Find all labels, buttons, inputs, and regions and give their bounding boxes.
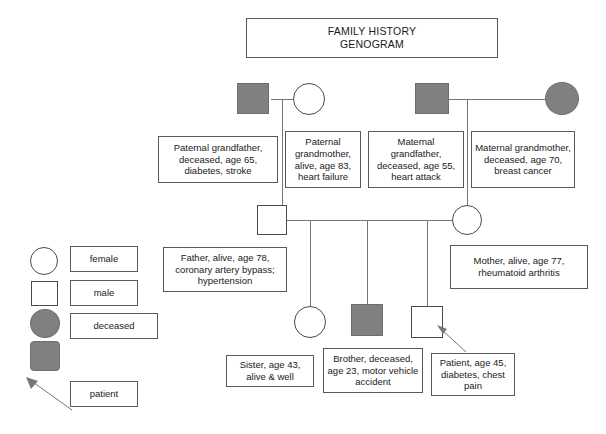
legend-label-patient: patient (70, 381, 138, 407)
legend-text: patient (90, 388, 119, 400)
legend-arrow-pointer-icon (0, 0, 606, 434)
genogram-canvas: FAMILY HISTORY GENOGRAM Paternal grandfa… (0, 0, 606, 434)
